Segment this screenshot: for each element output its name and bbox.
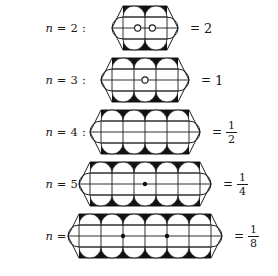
hexagon-diagram xyxy=(77,160,213,208)
diagram-row: n = 6 :=18 xyxy=(0,210,278,262)
row-value: =12 xyxy=(202,120,278,145)
hexagon-diagram xyxy=(110,4,180,52)
center-open-circle-marker xyxy=(149,25,155,31)
equals-sign: = xyxy=(234,229,244,243)
diagram-row: n = 2 :=2 xyxy=(0,2,278,54)
diagram-row: n = 3 :=1 xyxy=(0,54,278,106)
figure-root: n = 2 :=2n = 3 :=1n = 4 :=12n = 5 :=14n … xyxy=(0,0,278,276)
hexagon-diagram-svg xyxy=(88,108,202,156)
hexagon-diagram xyxy=(99,56,191,104)
fraction-value: 18 xyxy=(248,224,259,249)
integer-value: 1 xyxy=(215,73,223,88)
row-label-variable: n xyxy=(45,21,53,35)
diagram-row: n = 5 :=14 xyxy=(0,158,278,210)
row-value: =14 xyxy=(213,172,278,197)
fraction-denominator: 2 xyxy=(226,133,237,145)
row-label-variable: n xyxy=(45,177,53,191)
fraction-numerator: 1 xyxy=(248,224,259,236)
row-label-variable: n xyxy=(45,229,53,243)
row-label-variable: n xyxy=(45,125,53,139)
hexagon-diagram-svg xyxy=(110,4,180,52)
diagram-row: n = 4 :=12 xyxy=(0,106,278,158)
row-value: =18 xyxy=(224,224,278,249)
equals-sign: = xyxy=(190,21,200,35)
row-label: n = 2 : xyxy=(0,21,92,35)
fraction-value: 12 xyxy=(226,120,237,145)
fraction-numerator: 1 xyxy=(226,120,237,132)
row-value: =2 xyxy=(180,21,278,36)
equals-sign: = xyxy=(201,73,211,87)
hexagon-diagram xyxy=(66,212,224,260)
hexagon-diagram-svg xyxy=(66,212,224,260)
hexagon-diagram xyxy=(88,108,202,156)
row-label-equation: = 3 : xyxy=(57,73,86,87)
row-label-variable: n xyxy=(45,73,53,87)
center-filled-dot-marker xyxy=(143,182,147,186)
fraction-numerator: 1 xyxy=(237,172,248,184)
fraction-denominator: 8 xyxy=(248,237,259,249)
equals-sign: = xyxy=(223,177,233,191)
row-label: n = 3 : xyxy=(0,73,92,87)
fraction-value: 14 xyxy=(237,172,248,197)
center-filled-dot-marker xyxy=(165,234,169,238)
row-label-equation: = 4 : xyxy=(57,125,86,139)
hexagon-diagram-svg xyxy=(99,56,191,104)
center-open-circle-marker xyxy=(135,25,141,31)
row-label-equation: = 2 : xyxy=(57,21,86,35)
center-filled-dot-marker xyxy=(121,234,125,238)
center-open-circle-marker xyxy=(142,77,148,83)
hexagon-diagram-svg xyxy=(77,160,213,208)
row-value: =1 xyxy=(191,73,278,88)
equals-sign: = xyxy=(212,125,222,139)
fraction-denominator: 4 xyxy=(237,185,248,197)
row-label: n = 4 : xyxy=(0,125,92,139)
integer-value: 2 xyxy=(204,21,212,36)
